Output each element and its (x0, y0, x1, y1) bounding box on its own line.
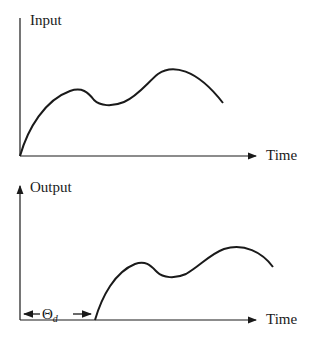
input-x-label: Time (266, 147, 297, 163)
delay-label: Θd (42, 306, 59, 324)
output-curve (95, 247, 273, 320)
output-y-label: Output (30, 179, 73, 195)
input-curve (20, 69, 223, 156)
input-plot: Input Time (20, 12, 297, 163)
delay-diagram: Input Time Output Time Θd (0, 0, 313, 340)
output-plot: Output Time Θd (20, 179, 297, 327)
output-x-label: Time (266, 311, 297, 327)
input-y-label: Input (30, 12, 62, 28)
